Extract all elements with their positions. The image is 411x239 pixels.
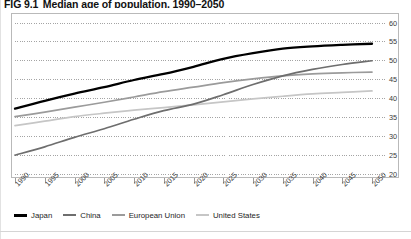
legend-label: United States — [213, 211, 260, 220]
legend-item-china[interactable]: China — [63, 211, 100, 220]
figure-number: FIG 9.1 — [4, 0, 38, 8]
chart-legend: JapanChinaEuropean UnionUnited States — [14, 209, 260, 221]
y-tick-label: 30 — [389, 132, 397, 141]
legend-item-european-union[interactable]: European Union — [112, 211, 185, 220]
y-tick-label: 25 — [389, 151, 397, 160]
legend-item-japan[interactable]: Japan — [14, 211, 52, 220]
line-chart-canvas: 202530354045505560 — [12, 14, 398, 177]
legend-swatch — [63, 214, 76, 216]
plot-area: 202530354045505560 — [11, 13, 399, 178]
legend-label: European Union — [129, 211, 185, 220]
legend-label: China — [80, 211, 100, 220]
legend-swatch — [14, 214, 27, 217]
x-axis: 1990199520002005201020152020202520302035… — [11, 178, 399, 208]
y-tick-label: 55 — [389, 37, 397, 46]
page-title: FIG 9.1 Median age of population, 1990–2… — [4, 0, 404, 8]
y-tick-label: 40 — [389, 94, 397, 103]
y-tick-label: 35 — [389, 113, 397, 122]
page-left-rule — [0, 0, 1, 239]
chart-figure: FIG 9.1 Median age of population, 1990–2… — [0, 0, 411, 239]
title-text: Median age of population, 1990–2050 — [43, 0, 224, 8]
y-tick-label: 60 — [389, 19, 397, 28]
legend-label: Japan — [31, 211, 52, 220]
legend-item-united-states[interactable]: United States — [196, 211, 260, 220]
legend-swatch — [112, 214, 125, 216]
series-line-japan — [15, 44, 372, 109]
y-tick-label: 50 — [389, 56, 397, 65]
y-tick-label: 45 — [389, 75, 397, 84]
legend-swatch — [196, 214, 209, 216]
page-bottom-rule — [0, 231, 411, 232]
y-tick-label: 20 — [389, 170, 397, 177]
